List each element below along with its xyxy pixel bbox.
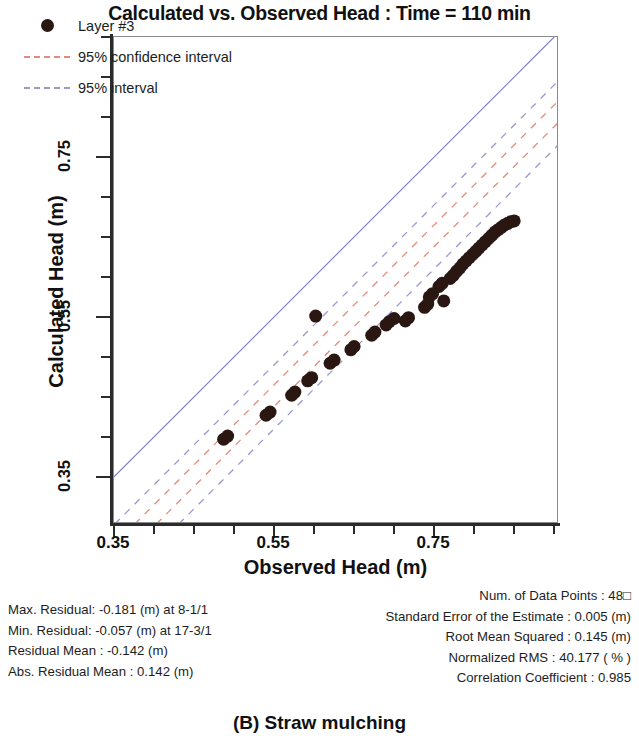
- y-axis-minor-tick: [101, 196, 111, 198]
- data-point: [264, 406, 277, 419]
- scatter-series: [217, 214, 521, 445]
- legend-marker-icon: [16, 19, 78, 32]
- x-axis-minor-tick: [193, 525, 195, 534]
- statistic-line: Root Mean Squared : 0.145 (m): [385, 627, 631, 648]
- statistic-line: Correlation Coefficient : 0.985: [385, 668, 631, 689]
- statistic-line: Abs. Residual Mean : 0.142 (m): [8, 662, 212, 683]
- data-point: [328, 354, 341, 367]
- x-axis-minor-tick: [553, 525, 555, 534]
- x-axis-tick-label: 0.35: [78, 533, 148, 553]
- legend-label: 95% interval: [78, 80, 158, 96]
- y-axis-major-tick: [96, 156, 111, 158]
- y-axis-title: Calculated Head (m): [45, 122, 68, 462]
- x-axis-minor-tick: [233, 525, 235, 534]
- data-point: [368, 326, 381, 339]
- legend-item-layer3: Layer #3: [16, 10, 276, 41]
- x-axis-minor-tick: [473, 525, 475, 534]
- chart-legend: Layer #3 95% confidence interval 95% int…: [16, 10, 276, 103]
- x-axis-tick-label: 0.75: [398, 533, 468, 553]
- statistics-left-column: Max. Residual: -0.181 (m) at 8-1/1Min. R…: [8, 600, 212, 682]
- y-axis-minor-tick: [101, 356, 111, 358]
- x-axis-minor-tick: [313, 525, 315, 534]
- data-point: [288, 386, 301, 399]
- data-point: [437, 294, 450, 307]
- statistic-line: Residual Mean : -0.142 (m): [8, 641, 212, 662]
- data-point: [388, 312, 401, 325]
- statistic-line: Max. Residual: -0.181 (m) at 8-1/1: [8, 600, 212, 621]
- statistic-line: Standard Error of the Estimate : 0.005 (…: [385, 607, 631, 628]
- legend-item-confidence-interval: 95% confidence interval: [16, 41, 276, 72]
- y-axis-major-tick: [96, 476, 111, 478]
- data-point: [305, 371, 318, 384]
- legend-dashed-line-icon: [16, 56, 78, 58]
- y-axis-minor-tick: [101, 276, 111, 278]
- x-axis-minor-tick: [153, 525, 155, 534]
- legend-item-interval: 95% interval: [16, 72, 276, 103]
- x-axis-minor-tick: [393, 525, 395, 534]
- legend-dashed-line-icon: [16, 87, 78, 89]
- y-axis-minor-tick: [101, 436, 111, 438]
- x-axis-spine: [110, 523, 560, 526]
- x-axis-minor-tick: [513, 525, 515, 534]
- legend-label: Layer #3: [78, 18, 134, 34]
- data-point: [508, 214, 521, 227]
- legend-label: 95% confidence interval: [78, 49, 232, 65]
- statistic-line: Min. Residual: -0.057 (m) at 17-3/1: [8, 621, 212, 642]
- data-point: [402, 311, 415, 324]
- reference-line: [156, 122, 558, 523]
- plot-canvas: [114, 37, 558, 523]
- data-point: [309, 310, 322, 323]
- x-axis-tick-label: 0.55: [238, 533, 308, 553]
- statistic-line: Num. of Data Points : 48□: [385, 586, 631, 607]
- reference-line: [115, 80, 558, 523]
- statistics-block: Max. Residual: -0.181 (m) at 8-1/1Min. R…: [0, 600, 639, 700]
- figure-caption: (B) Straw mulching: [0, 712, 639, 734]
- y-axis-minor-tick: [101, 116, 111, 118]
- data-point: [221, 430, 234, 443]
- y-axis-major-tick: [96, 316, 111, 318]
- x-axis-title: Observed Head (m): [113, 556, 558, 579]
- plot-area: [113, 36, 558, 523]
- x-axis-minor-tick: [353, 525, 355, 534]
- data-point: [348, 340, 361, 353]
- y-axis-minor-tick: [101, 396, 111, 398]
- y-axis-minor-tick: [101, 236, 111, 238]
- statistic-line: Normalized RMS : 40.177 ( % ): [385, 648, 631, 669]
- statistics-right-column: Num. of Data Points : 48□Standard Error …: [385, 586, 631, 689]
- reference-line: [135, 100, 558, 523]
- y-axis-spine: [110, 34, 113, 526]
